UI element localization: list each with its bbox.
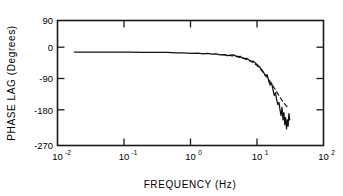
x-axis-ticks-top	[124, 21, 257, 28]
x-tick-label-1e-1: 10 -1	[119, 149, 138, 162]
y-axis-ticks-right	[317, 47, 324, 110]
svg-text:10: 10	[119, 151, 130, 162]
x-tick-labels: 10 -2 10 -1 10 0 10 1 10 2	[52, 149, 335, 162]
y-tick-label-90: 90	[42, 15, 53, 26]
svg-text:0: 0	[198, 149, 202, 156]
y-tick-label-neg90: -90	[39, 73, 53, 84]
measured-phase-curve	[74, 52, 289, 129]
y-axis-title: PHASE LAG (Degrees)	[6, 25, 17, 140]
x-axis-ticks	[124, 139, 257, 146]
svg-text:10: 10	[52, 151, 63, 162]
figure-container: 90 0 -90 -180 -270 10 -2 10 -1 10 0 10 1	[0, 0, 343, 196]
x-axis-title: FREQUENCY (Hz)	[144, 179, 237, 190]
x-tick-label-1e1: 10 1	[252, 149, 269, 162]
plot-frame	[58, 21, 324, 146]
svg-text:10: 10	[252, 151, 263, 162]
phase-lag-bode-plot: 90 0 -90 -180 -270 10 -2 10 -1 10 0 10 1	[0, 0, 343, 196]
svg-text:10: 10	[185, 151, 196, 162]
x-tick-label-1e-2: 10 -2	[52, 149, 71, 162]
x-tick-label-1e2: 10 2	[318, 149, 335, 162]
svg-text:-1: -1	[132, 149, 138, 156]
y-tick-label-neg180: -180	[34, 105, 53, 116]
y-tick-labels: 90 0 -90 -180 -270	[34, 15, 53, 151]
y-tick-label-0: 0	[48, 42, 53, 53]
y-axis-ticks	[58, 47, 65, 110]
svg-text:10: 10	[318, 151, 329, 162]
x-tick-label-1e0: 10 0	[185, 149, 202, 162]
y-tick-label-neg270: -270	[34, 140, 53, 151]
svg-text:-2: -2	[65, 149, 71, 156]
svg-text:1: 1	[265, 149, 269, 156]
svg-text:2: 2	[331, 149, 335, 156]
